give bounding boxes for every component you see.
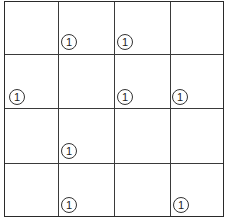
clue-circle: 1 xyxy=(9,89,25,105)
grid-cell-r3-c0[interactable] xyxy=(4,163,58,217)
grid-cell-r2-c3[interactable] xyxy=(170,108,224,163)
clue-circle: 1 xyxy=(61,143,77,159)
grid-cell-r0-c0[interactable] xyxy=(4,1,58,54)
clue-circle: 1 xyxy=(61,34,77,50)
clue-circle: 1 xyxy=(173,197,189,213)
clue-circle: 1 xyxy=(172,89,188,105)
clue-circle: 1 xyxy=(117,34,133,50)
grid-cell-r2-c2[interactable] xyxy=(114,108,170,163)
grid-cell-r1-c1[interactable] xyxy=(58,54,114,108)
grid-cell-r2-c0[interactable] xyxy=(4,108,58,163)
grid-cell-r3-c2[interactable] xyxy=(114,163,170,217)
clue-circle: 1 xyxy=(117,89,133,105)
grid-cell-r0-c3[interactable] xyxy=(170,1,224,54)
clue-circle: 1 xyxy=(61,197,77,213)
